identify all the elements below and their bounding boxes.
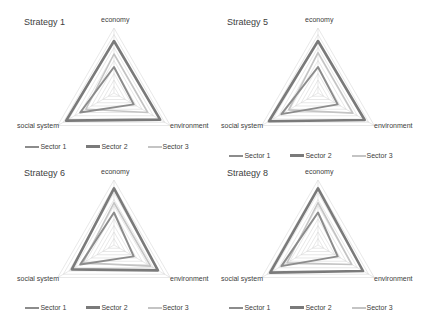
legend-label: Sector 3 [367,152,393,159]
chart-legend: Sector 1 Sector 2 Sector 3 [204,152,418,159]
radar-chart [214,163,428,326]
axis-label-environment: environment [170,275,209,282]
legend-label: Sector 3 [367,304,393,311]
legend-label: Sector 2 [101,304,127,311]
legend-label: Sector 1 [244,152,270,159]
legend-item-sector-1: Sector 1 [229,152,270,159]
chart-title: Strategy 6 [24,168,65,178]
legend-item-sector-2: Sector 2 [290,304,331,311]
axis-label-economy: economy [305,16,333,23]
legend-swatch [86,306,100,309]
legend-label: Sector 1 [40,304,66,311]
legend-item-sector-1: Sector 1 [25,304,66,311]
axis-label-social-system: social system [17,275,59,282]
legend-swatch [148,307,162,309]
axis-label-economy: economy [101,16,129,23]
legend-item-sector-3: Sector 3 [148,304,189,311]
legend-label: Sector 2 [305,152,331,159]
legend-swatch [290,154,304,157]
chart-title: Strategy 1 [24,17,65,27]
legend-swatch [86,145,100,148]
chart-legend: Sector 1 Sector 2 Sector 3 [204,304,418,311]
legend-swatch [25,307,39,309]
legend-label: Sector 3 [163,304,189,311]
legend-item-sector-1: Sector 1 [229,304,270,311]
legend-label: Sector 2 [305,304,331,311]
axis-label-economy: economy [101,168,129,175]
legend-label: Sector 1 [40,143,66,150]
chart-legend: Sector 1 Sector 2 Sector 3 [0,143,214,150]
radar-panel-strategy-8: Strategy 8 economy social system environ… [214,163,428,326]
chart-legend: Sector 1 Sector 2 Sector 3 [0,304,214,311]
radar-chart [0,163,214,326]
axis-label-economy: economy [305,168,333,175]
legend-item-sector-3: Sector 3 [352,152,393,159]
series-sector-3 [83,203,151,266]
radar-panel-strategy-5: Strategy 5 economy social system environ… [214,0,428,163]
legend-label: Sector 2 [101,143,127,150]
legend-label: Sector 1 [244,304,270,311]
axis-label-social-system: social system [221,275,263,282]
legend-swatch [352,307,366,309]
legend-label: Sector 3 [163,143,189,150]
legend-item-sector-2: Sector 2 [290,152,331,159]
legend-swatch [352,155,366,157]
axis-label-environment: environment [374,122,413,129]
axis-label-environment: environment [170,122,209,129]
legend-swatch [148,146,162,148]
legend-item-sector-2: Sector 2 [86,304,127,311]
chart-title: Strategy 8 [227,168,268,178]
radar-panel-strategy-1: Strategy 1 economy social system environ… [0,0,214,163]
legend-item-sector-1: Sector 1 [25,143,66,150]
chart-title: Strategy 5 [227,17,268,27]
legend-swatch [229,155,243,157]
legend-swatch [25,146,39,148]
axis-label-social-system: social system [17,122,59,129]
legend-item-sector-3: Sector 3 [352,304,393,311]
legend-swatch [229,307,243,309]
legend-item-sector-3: Sector 3 [148,143,189,150]
axis-label-environment: environment [374,275,413,282]
axis-label-social-system: social system [221,122,263,129]
legend-item-sector-2: Sector 2 [86,143,127,150]
radar-panel-strategy-6: Strategy 6 economy social system environ… [0,163,214,326]
legend-swatch [290,306,304,309]
